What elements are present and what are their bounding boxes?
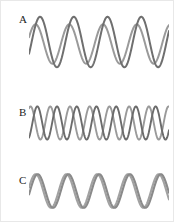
waveform-svg-b [29, 101, 169, 145]
panel-label-c: C [19, 175, 26, 186]
panel-label-b: B [19, 107, 26, 118]
waveform-plot-b [29, 101, 169, 145]
waveform-svg-a [29, 11, 169, 73]
wave-path-b-wave-2 [29, 106, 169, 139]
waveform-figure: A B C [0, 0, 174, 222]
panel-label-a: A [19, 14, 27, 25]
waveform-plot-c [29, 169, 169, 213]
waveform-svg-c [29, 169, 169, 213]
waveform-plot-a [29, 11, 169, 73]
